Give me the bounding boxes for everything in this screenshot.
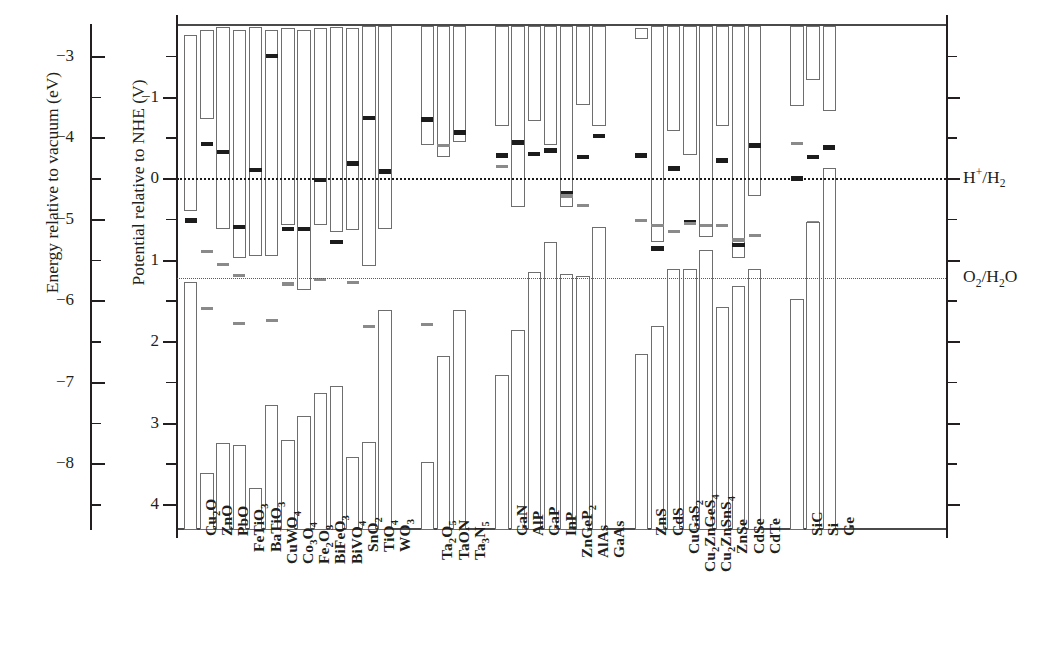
outer-axis-tick-major [90, 463, 105, 465]
band-gap-bar [576, 276, 589, 530]
inner-axis-tick-minor [166, 219, 177, 221]
reference-level-marker [684, 222, 696, 225]
inner-axis-tick-major [163, 97, 177, 99]
band-edge-marker [347, 161, 359, 166]
inner-axis-tick-right [946, 178, 960, 180]
band-edge-marker [749, 143, 761, 148]
x-axis-tick-label: AlAs [595, 525, 611, 558]
band-gap-bar [823, 26, 836, 111]
reference-level-marker [577, 204, 589, 207]
inner-axis-tick-right [946, 504, 960, 506]
inner-axis-tick-minor-right [946, 300, 957, 302]
band-edge-marker [282, 227, 294, 232]
band-gap-bar [806, 26, 819, 80]
band-gap-bar [544, 242, 557, 530]
band-gap-bar [651, 326, 664, 530]
band-gap-bar [437, 356, 450, 530]
inner-axis-tick-major [163, 504, 177, 506]
band-gap-bar [453, 310, 466, 530]
x-axis-tick-label: CdTe [767, 518, 783, 554]
band-edge-marker [823, 145, 835, 150]
band-gap-bar [421, 462, 434, 530]
band-gap-bar [216, 27, 229, 228]
band-gap-bar [748, 26, 761, 196]
band-edge-marker [577, 155, 589, 160]
band-edge-marker [217, 150, 229, 155]
band-gap-bar [200, 30, 213, 120]
band-gap-bar [790, 299, 803, 530]
inner-axis-tick-minor-right [946, 382, 957, 384]
band-gap-bar [314, 393, 327, 530]
x-axis-tick-label: Ta3N5 [472, 521, 492, 560]
inner-axis-tick-label: 0 [123, 169, 159, 186]
band-gap-bar [699, 26, 712, 236]
x-axis-tick-label: SiC [809, 512, 825, 536]
outer-axis-tick-major [90, 137, 105, 139]
x-axis-tick-label: ZnO [219, 505, 235, 536]
inner-axis-tick-label: 2 [123, 332, 159, 349]
band-gap-bar [184, 282, 197, 530]
inner-axis-tick-right [946, 341, 960, 343]
band-gap-bar [732, 286, 745, 530]
inner-axis-tick-label: 3 [123, 414, 159, 431]
outer-axis-tick-label: −5 [40, 210, 74, 227]
band-gap-bar [297, 30, 310, 291]
outer-axis-line [90, 24, 92, 530]
band-gap-bar [453, 26, 466, 142]
inner-axis-tick-major [163, 178, 177, 180]
band-gap-bar [592, 227, 605, 530]
reference-level-marker [347, 281, 359, 284]
band-gap-bar [346, 28, 359, 230]
band-gap-bar [378, 26, 391, 228]
inner-axis-tick-major [163, 341, 177, 343]
band-edge-marker [454, 130, 466, 135]
inner-axis-tick-right [946, 423, 960, 425]
band-edge-marker [512, 140, 524, 145]
outer-axis-tick-minor [90, 504, 101, 506]
band-gap-bar [314, 28, 327, 225]
band-edge-marker [379, 169, 391, 174]
band-edge-marker [249, 168, 261, 173]
band-gap-bar [732, 26, 745, 257]
inner-axis-tick-minor [166, 300, 177, 302]
plot-top-border [177, 24, 946, 26]
band-gap-bar [683, 269, 696, 530]
band-gap-bar [281, 28, 294, 225]
inner-axis-tick-right [946, 97, 960, 99]
outer-axis-tick-minor [90, 97, 101, 99]
band-gap-bar [748, 269, 761, 530]
outer-axis-tick-minor [90, 423, 101, 425]
outer-axis-tick-minor [90, 341, 101, 343]
inner-axis-tick-right [946, 260, 960, 262]
inner-axis-tick-minor [166, 463, 177, 465]
hydrogen-evolution-line [177, 178, 946, 180]
x-axis-tick-label: GaN [514, 505, 530, 536]
band-gap-bar [667, 26, 680, 130]
band-edge-marker [651, 246, 663, 251]
x-axis-tick-label: ZnS [653, 508, 669, 536]
band-gap-bar [699, 250, 712, 530]
inner-axis-tick-minor [166, 56, 177, 58]
x-axis-tick-label: CdS [670, 507, 686, 536]
band-edge-marker [201, 142, 213, 147]
outer-axis-tick-major [90, 382, 105, 384]
band-gap-bar [528, 26, 541, 121]
reference-level-marker [732, 238, 744, 241]
x-axis-tick-label: ZnSe [734, 519, 750, 554]
band-edge-marker [496, 153, 508, 158]
outer-axis-tick-minor [90, 178, 101, 180]
band-gap-bar [560, 274, 573, 530]
reference-level-marker [266, 319, 278, 322]
band-gap-bar [576, 26, 589, 104]
band-gap-bar [667, 269, 680, 530]
band-edge-marker [528, 152, 540, 157]
reference-level-marker [421, 323, 433, 326]
reference-level-marker [233, 322, 245, 325]
reference-level-marker [651, 224, 663, 227]
reference-level-marker [791, 142, 803, 145]
band-edge-marker [668, 166, 680, 171]
x-axis-tick-label: TaON [456, 520, 472, 560]
band-gap-bar [560, 26, 573, 207]
outer-axis-tick-label: −4 [40, 128, 74, 145]
band-gap-bar [378, 310, 391, 530]
